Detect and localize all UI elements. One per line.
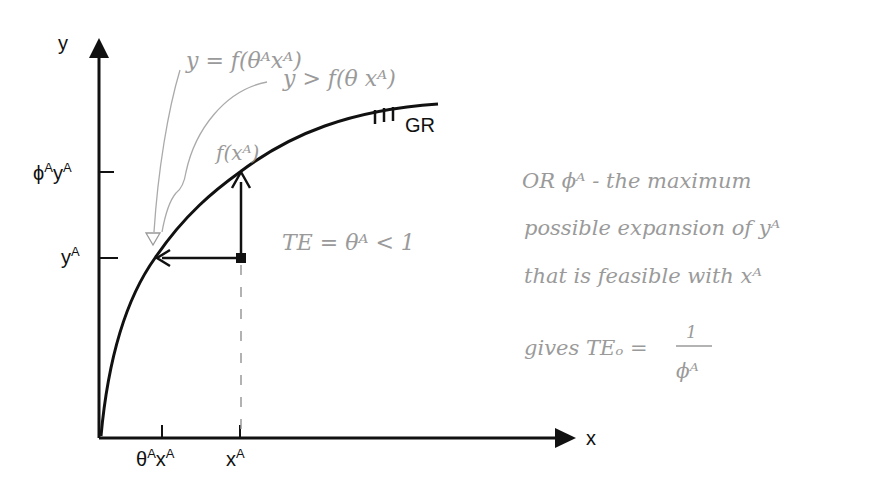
x-axis-label: x	[586, 427, 596, 449]
x-tick-label-theta-A-x-A: θAxA	[136, 446, 175, 470]
y-axis	[89, 38, 109, 438]
firm-A-point	[236, 253, 246, 263]
production-frontier-curve	[101, 104, 438, 436]
annotation-te: TE = θᴬ < 1	[282, 230, 415, 255]
eq-pointer-arrow-icon	[146, 233, 160, 245]
x-tick-label-x-A: xA	[226, 446, 245, 470]
curve-point-label: f(xᴬ)	[214, 141, 259, 165]
side-note-line-1: OR ϕᴬ - the maximum	[522, 169, 751, 193]
y-tick-label-phi-A-y-A: ϕAyA	[33, 160, 72, 184]
side-note-line-2: possible expansion of yᴬ	[524, 216, 780, 240]
annotation-gt: y > f(θ xᴬ)	[282, 66, 396, 91]
technical-efficiency-diagram: y x ϕAyA yA θAxA xA GR y = f(θᴬxᴬ) y > f…	[0, 0, 885, 496]
y-axis-label: y	[58, 32, 68, 54]
side-note-line-3: that is feasible with xᴬ	[524, 264, 762, 288]
x-axis-arrow-icon	[555, 428, 576, 448]
fraction-numerator: 1	[686, 322, 697, 342]
frontier-label-GR: GR	[405, 114, 435, 136]
eq-pointer-line	[154, 70, 180, 232]
y-tick-label-y-A: yA	[61, 244, 80, 268]
fraction-denominator: ϕᴬ	[676, 359, 699, 383]
side-note-line-4: gives TEₒ =	[524, 336, 648, 360]
y-axis-arrow-icon	[89, 38, 109, 58]
x-axis	[99, 428, 576, 448]
side-note: OR ϕᴬ - the maximum possible expansion o…	[522, 169, 780, 383]
